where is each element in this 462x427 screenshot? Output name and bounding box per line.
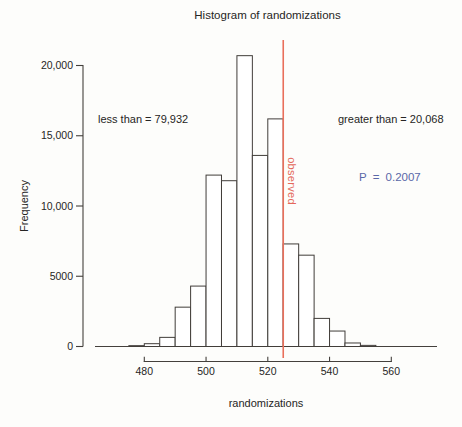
histogram-bar [360, 345, 375, 346]
histogram-bar [252, 155, 267, 346]
y-axis-tick-label: 15,000 [41, 129, 73, 141]
histogram-bar [221, 181, 236, 347]
x-axis-tick-label: 540 [321, 365, 339, 377]
histogram-bar [191, 286, 206, 346]
histogram-bar [160, 337, 175, 346]
y-axis-tick-label: 5000 [50, 270, 74, 282]
x-axis-tick-label: 480 [136, 365, 154, 377]
histogram-bar [175, 307, 190, 346]
x-axis-tick-label: 500 [197, 365, 215, 377]
histogram-bar [206, 175, 221, 346]
histogram-bar [299, 255, 314, 346]
randomization-histogram-figure: Histogram of randomizations Frequency ra… [0, 0, 462, 427]
histogram-bar [144, 344, 159, 347]
histogram-bar [237, 56, 252, 347]
x-axis-tick-label: 560 [383, 365, 401, 377]
histogram-bar [314, 318, 329, 346]
histogram-bar [268, 119, 283, 347]
histogram-bar [129, 346, 144, 347]
x-axis-tick-label: 520 [259, 365, 277, 377]
histogram-plot: 0500010,00015,00020,000480500520540560 [0, 0, 462, 427]
y-axis-tick-label: 20,000 [41, 59, 73, 71]
y-axis-tick-label: 10,000 [41, 200, 73, 212]
histogram-bar [330, 331, 345, 346]
y-axis-tick-label: 0 [67, 340, 73, 352]
histogram-bar [345, 343, 360, 347]
histogram-bar [283, 244, 298, 347]
